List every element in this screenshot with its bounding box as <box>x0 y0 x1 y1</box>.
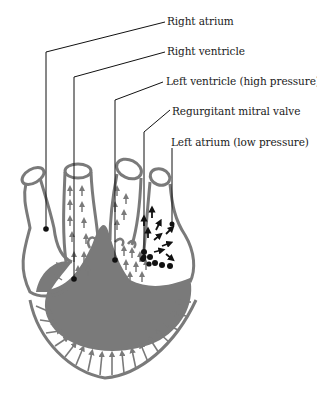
label-regurgitant-mitral-valve: Regurgitant mitral valve <box>172 106 300 117</box>
label-left-ventricle: Left ventricle (high pressure) <box>166 76 317 87</box>
label-left-atrium: Left atrium (low pressure) <box>171 137 309 148</box>
label-right-atrium: Right atrium <box>167 16 234 27</box>
heart-illustration <box>0 0 317 397</box>
heart-diagram: Right atrium Right ventricle Left ventri… <box>0 0 317 397</box>
label-right-ventricle: Right ventricle <box>167 46 245 57</box>
